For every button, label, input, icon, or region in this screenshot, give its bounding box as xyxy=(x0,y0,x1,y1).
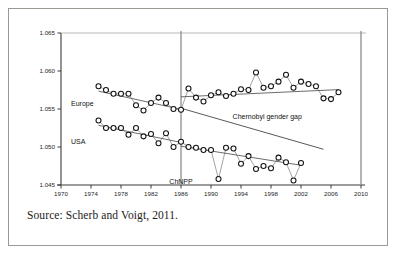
data-point-europe xyxy=(149,100,154,105)
series-connector-usa xyxy=(99,120,302,180)
data-point-usa xyxy=(261,164,266,169)
data-point-usa xyxy=(111,126,116,131)
data-point-europe xyxy=(209,93,214,98)
annotation-chernobyl-gender-gap: Chernobyl gender gap xyxy=(233,113,302,121)
y-tick-label: 1.050 xyxy=(40,143,56,150)
data-point-europe xyxy=(246,88,251,93)
x-tick-labels-group: 1970197419781982198619901994199820022006… xyxy=(54,190,368,197)
data-point-usa xyxy=(209,148,214,153)
data-point-europe xyxy=(261,85,266,90)
data-point-usa xyxy=(171,145,176,150)
data-point-europe xyxy=(141,108,146,113)
chart-svg: 1970197419781982198619901994199820022006… xyxy=(9,9,389,209)
x-tick-label: 2006 xyxy=(324,190,338,197)
data-point-usa xyxy=(299,160,304,165)
data-point-europe xyxy=(231,91,236,96)
data-point-europe xyxy=(111,91,116,96)
data-point-usa xyxy=(216,176,221,181)
data-point-usa xyxy=(231,146,236,151)
data-point-usa xyxy=(179,139,184,144)
data-point-europe xyxy=(156,95,161,100)
x-tick-label: 2002 xyxy=(294,190,308,197)
data-point-europe xyxy=(284,72,289,77)
data-point-usa xyxy=(254,167,259,172)
data-point-europe xyxy=(216,90,221,95)
data-point-usa xyxy=(96,118,101,123)
y-tick-label: 1.065 xyxy=(40,29,56,36)
series-label-usa: USA xyxy=(71,138,86,145)
data-point-europe xyxy=(194,95,199,100)
data-point-usa xyxy=(194,145,199,150)
data-point-usa xyxy=(149,132,154,137)
data-point-europe xyxy=(329,97,334,102)
x-tick-label: 1994 xyxy=(234,190,248,197)
data-point-europe xyxy=(126,91,131,96)
x-tick-label: 1990 xyxy=(204,190,218,197)
data-point-usa xyxy=(291,178,296,183)
x-tick-label: 1982 xyxy=(144,190,158,197)
data-point-europe xyxy=(104,88,109,93)
reference-lines-group xyxy=(181,31,361,185)
data-point-europe xyxy=(96,84,101,89)
y-tick-labels-group: 1.0651.0601.0551.0501.045 xyxy=(40,29,56,188)
data-point-usa xyxy=(269,166,274,171)
y-tick-label: 1.060 xyxy=(40,67,56,74)
data-point-europe xyxy=(164,100,169,105)
data-point-usa xyxy=(239,161,244,166)
source-caption: Source: Scherb and Voigt, 2011. xyxy=(27,209,178,221)
chart-plot-area: 1970197419781982198619901994199820022006… xyxy=(9,9,389,209)
data-point-usa xyxy=(156,141,161,146)
y-tick-label: 1.045 xyxy=(40,181,56,188)
data-point-europe xyxy=(306,81,311,86)
data-point-usa xyxy=(134,126,139,131)
x-tick-label: 1978 xyxy=(114,190,128,197)
data-point-europe xyxy=(299,79,304,84)
figure-frame: 1970197419781982198619901994199820022006… xyxy=(8,8,388,246)
data-point-europe xyxy=(269,84,274,89)
data-point-usa xyxy=(276,155,281,160)
data-point-usa xyxy=(246,154,251,159)
data-points-group xyxy=(96,70,341,183)
data-point-usa xyxy=(141,134,146,139)
y-tick-label: 1.055 xyxy=(40,105,56,112)
trend-line-europe-post-1986 xyxy=(181,90,339,97)
data-point-usa xyxy=(201,148,206,153)
data-point-europe xyxy=(186,86,191,91)
data-point-usa xyxy=(224,145,229,150)
x-tick-label: 2010 xyxy=(354,190,368,197)
data-point-usa xyxy=(164,131,169,136)
data-point-europe xyxy=(171,107,176,112)
data-point-europe xyxy=(314,84,319,89)
data-point-europe xyxy=(224,94,229,99)
data-point-europe xyxy=(321,96,326,101)
data-point-europe xyxy=(179,107,184,112)
data-point-europe xyxy=(239,87,244,92)
x-tick-label: 1970 xyxy=(54,190,68,197)
series-label-europe: Europe xyxy=(71,100,94,108)
x-tick-label: 1998 xyxy=(264,190,278,197)
data-point-europe xyxy=(134,103,139,108)
data-point-usa xyxy=(119,126,124,131)
data-point-usa xyxy=(126,132,131,137)
data-point-usa xyxy=(284,160,289,165)
series-labels-group: EuropeUSA xyxy=(71,100,94,145)
annotation-chnpp-marker: ChNPP xyxy=(169,178,193,185)
data-point-europe xyxy=(276,79,281,84)
x-tick-label: 1974 xyxy=(84,190,98,197)
data-point-europe xyxy=(291,85,296,90)
data-point-europe xyxy=(119,91,124,96)
data-point-usa xyxy=(104,126,109,131)
x-tick-label: 1986 xyxy=(174,190,188,197)
axes-group xyxy=(57,33,366,189)
data-point-europe xyxy=(254,70,259,75)
data-point-europe xyxy=(336,90,341,95)
data-point-usa xyxy=(186,145,191,150)
data-point-europe xyxy=(201,99,206,104)
